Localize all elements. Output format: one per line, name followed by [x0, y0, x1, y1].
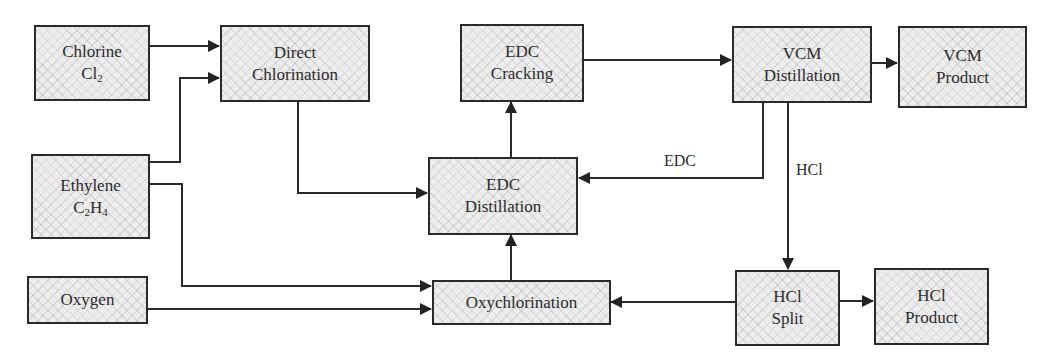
node-hcl-split: HCl Split [735, 270, 840, 346]
node-label-line1: EDC [505, 41, 539, 63]
edge-label-hcl: HCl [796, 161, 823, 179]
formula-h: H [90, 198, 102, 217]
arrow-direct-chlorination-to-edc-distillation [298, 101, 427, 193]
node-label-line2: Product [905, 307, 958, 329]
node-oxychlorination-label: Oxychlorination [466, 292, 577, 314]
edge-label-edc-recycle: EDC [664, 152, 696, 170]
node-vcm-product: VCM Product [898, 26, 1027, 108]
node-hcl-product: HCl Product [874, 268, 989, 345]
node-label-line1: EDC [486, 174, 520, 196]
node-label-line1: VCM [943, 45, 982, 67]
formula-cl: Cl [81, 64, 97, 83]
node-label-line1: Direct [274, 42, 316, 64]
node-chlorine: Chlorine Cl2 [34, 25, 150, 101]
node-ethylene-label: Ethylene [60, 175, 120, 197]
arrow-ethylene-to-oxychlorination [150, 184, 431, 286]
node-ethylene-formula: C2H4 [73, 197, 108, 219]
node-vcm-distillation: VCM Distillation [732, 26, 872, 103]
node-edc-cracking: EDC Cracking [460, 24, 584, 102]
node-chlorine-formula: Cl2 [81, 63, 103, 85]
node-ethylene: Ethylene C2H4 [31, 154, 150, 239]
node-label-line2: Product [936, 67, 989, 89]
formula-subscript: 4 [102, 206, 108, 218]
node-oxychlorination: Oxychlorination [432, 280, 611, 325]
node-direct-chlorination: Direct Chlorination [220, 25, 370, 102]
node-oxygen: Oxygen [27, 276, 148, 324]
node-edc-distillation: EDC Distillation [428, 157, 578, 235]
node-label-line2: Distillation [764, 65, 841, 87]
formula-subscript: 2 [97, 72, 103, 84]
node-label-line2: Distillation [465, 196, 542, 218]
node-label-line2: Split [771, 308, 803, 330]
node-label-line2: Chlorination [252, 64, 338, 86]
formula-c: C [73, 198, 84, 217]
node-label-line2: Cracking [491, 63, 553, 85]
node-label-line1: HCl [773, 286, 801, 308]
vcm-process-flow-diagram: Chlorine Cl2 Direct Chlorination Ethylen… [0, 0, 1043, 355]
node-oxygen-label: Oxygen [61, 289, 115, 311]
node-label-line1: VCM [783, 43, 822, 65]
node-chlorine-label: Chlorine [62, 41, 122, 63]
arrow-ethylene-to-direct-chlorination [150, 78, 219, 162]
node-label-line1: HCl [917, 285, 945, 307]
